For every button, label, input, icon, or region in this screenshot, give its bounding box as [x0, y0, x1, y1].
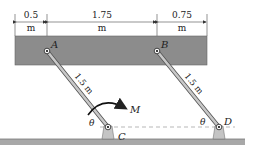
label-C: C	[118, 131, 126, 142]
dimension-3-value: 0.75	[172, 10, 192, 20]
label-M: M	[129, 104, 141, 115]
pin-B	[154, 48, 160, 54]
dimension-2-unit: m	[98, 23, 107, 33]
angle-theta-D: θ	[200, 117, 206, 127]
moment-arrow-icon	[88, 103, 125, 115]
label-A: A	[50, 39, 58, 50]
horizontal-bar	[15, 36, 207, 65]
dimension-1-unit: m	[27, 23, 36, 33]
dimension-1-value: 0.5	[24, 10, 39, 20]
length-AC: 1.5 m	[72, 71, 95, 96]
mechanism-diagram: 0.5 m 1.75 m 0.75 m A B C D 1.5 m 1.5 m …	[0, 0, 261, 152]
pin-D	[216, 124, 222, 130]
label-B: B	[160, 39, 168, 50]
dimension-2-value: 1.75	[92, 10, 112, 20]
angle-theta-C: θ	[89, 118, 95, 128]
label-D: D	[223, 116, 232, 127]
pin-A	[44, 48, 50, 54]
pin-C	[105, 124, 111, 130]
dimension-3-unit: m	[178, 23, 187, 33]
